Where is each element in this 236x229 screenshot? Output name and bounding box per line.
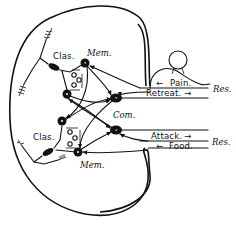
body-notch-top <box>138 24 146 86</box>
receptor-circle <box>169 51 187 69</box>
arrow-food: ← <box>156 141 163 151</box>
clas-neuron-bottom <box>41 146 54 157</box>
label-clas-bottom: Clas. <box>33 132 55 142</box>
label-food: Food. <box>169 141 193 151</box>
dendrite-top-2 <box>18 84 26 96</box>
label-retreat: Retreat. <box>146 88 181 98</box>
label-clas-top: Clas. <box>53 51 75 61</box>
dendrite-bottom-2 <box>58 154 66 160</box>
label-attack: Attack. <box>151 131 182 141</box>
pathways <box>65 66 150 153</box>
label-pain: Pain. <box>170 78 191 88</box>
label-mem-top: Mem. <box>86 48 112 58</box>
label-res-top: Res. <box>212 84 232 94</box>
label-res-bottom: Res. <box>211 137 231 147</box>
body-notch-bottom <box>100 150 150 212</box>
dendrite-top-1 <box>44 28 52 40</box>
interneurons-top <box>70 70 82 90</box>
arrow-attack: → <box>184 131 191 141</box>
clas-neuron-top <box>47 62 60 73</box>
interneurons-bottom <box>66 128 80 148</box>
arrow-pain: ← <box>156 78 163 88</box>
neural-diagram: Clas. Mem. Com. Clas. Mem. Pain. ← Retre… <box>0 0 236 229</box>
label-com: Com. <box>113 110 135 120</box>
dendrite-bottom-1 <box>17 140 24 146</box>
arrow-retreat: → <box>184 88 191 98</box>
label-mem-bottom: Mem. <box>79 160 105 170</box>
